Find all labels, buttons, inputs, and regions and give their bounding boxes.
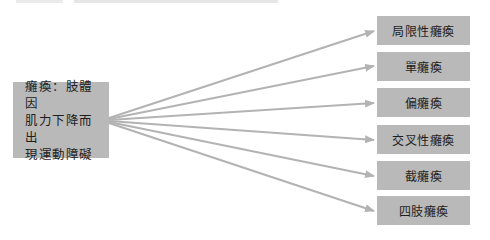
target-node-4: 交叉性癱瘓 [377, 125, 470, 154]
target-node-label: 單癱瘓 [405, 58, 443, 75]
target-node-5: 截癱瘓 [377, 161, 470, 190]
target-node-label: 截癱瘓 [405, 167, 443, 184]
target-node-6: 四肢癱瘓 [377, 196, 470, 225]
target-node-3: 偏癱瘓 [377, 88, 470, 117]
target-node-label: 局限性癱瘓 [392, 22, 455, 39]
target-node-1: 局限性癱瘓 [377, 16, 470, 45]
target-node-label: 交叉性癱瘓 [392, 131, 455, 148]
target-node-label: 偏癱瘓 [405, 94, 443, 111]
source-node: 癱瘓：肢體因 肌力下降而出 現運動障礙 [13, 82, 109, 158]
target-node-label: 四肢癱瘓 [399, 202, 449, 219]
source-node-label: 癱瘓：肢體因 肌力下降而出 現運動障礙 [25, 78, 103, 163]
target-node-2: 單癱瘓 [377, 52, 470, 81]
